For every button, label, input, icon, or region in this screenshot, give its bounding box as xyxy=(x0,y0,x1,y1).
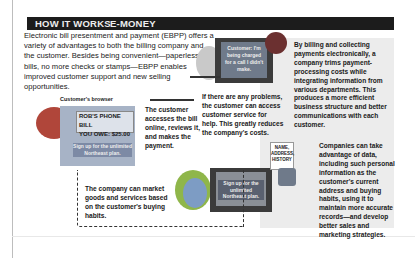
bill-title: ROB'S PHONE BILL xyxy=(77,112,133,130)
data-stack-icon xyxy=(278,168,296,186)
topic-label: E-MONEY xyxy=(110,17,156,30)
access-caption: The customer accesses the bill online, r… xyxy=(145,106,201,151)
header-banner: HOW IT WORKS E-MONEY xyxy=(27,17,394,30)
section-label: HOW IT WORKS xyxy=(35,17,111,30)
data-tag: NAME, ADDRESS, HISTORY xyxy=(270,142,294,170)
data-caption: Companies can take advantage of data, in… xyxy=(319,142,395,240)
agent-head-icon xyxy=(265,32,287,54)
billing-caption: By billing and collecting payments elect… xyxy=(294,41,394,130)
service-message: Customer: I'm being charged for a call I… xyxy=(223,45,265,73)
left-arrow-icon xyxy=(150,99,194,101)
bill-amount: YOU OWE: $25.00 xyxy=(77,130,133,139)
problems-caption: If there are any problems, the customer … xyxy=(202,93,284,138)
signup-button[interactable]: Sign up for the unlimited Northeast plan… xyxy=(73,143,132,157)
arrow-icon xyxy=(190,76,220,78)
intro-text: Electronic bill presentment and payment … xyxy=(24,31,216,92)
market-caption: The company can market goods and service… xyxy=(85,185,171,221)
bill-box: ROB'S PHONE BILL YOU OWE: $25.00 xyxy=(76,111,134,133)
browser-label: Customer's browser xyxy=(60,96,113,102)
left-rule xyxy=(12,0,13,258)
